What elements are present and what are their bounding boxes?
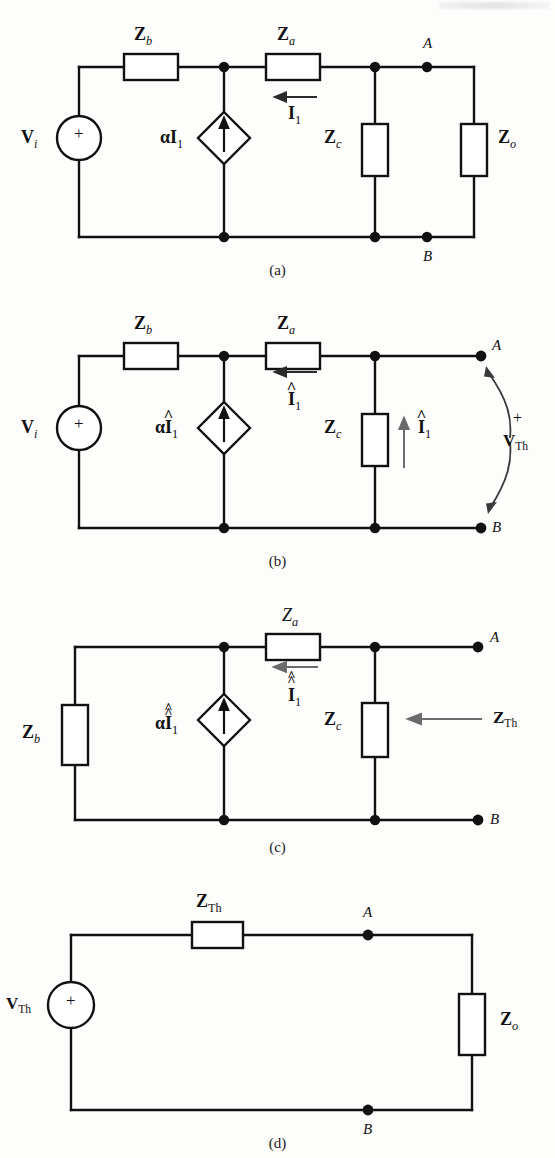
resistor-zb-a xyxy=(124,54,178,80)
label-branch-i1hat-b: ^I1 xyxy=(418,418,431,440)
panel-d-svg xyxy=(0,870,555,1158)
terminal-label-d-A: A xyxy=(363,905,372,920)
resistor-zc-a xyxy=(362,124,388,176)
panel-c: Zb Za Zc α^^I1 ^^I1 ZTh A B (c) xyxy=(0,590,555,870)
resistor-zo-d xyxy=(459,994,485,1055)
panel-a: Zb Za Zc Zo Vi + αI1 I1 A B (a) xyxy=(0,0,555,290)
terminal-dot-b-A xyxy=(476,351,487,362)
terminal-label-b-A: A xyxy=(492,338,501,353)
label-zo-d: Zo xyxy=(500,1010,518,1032)
terminal-label-c-A: A xyxy=(490,630,499,645)
node-dot-a-3 xyxy=(370,62,380,72)
label-zc-c: Zc xyxy=(324,710,341,732)
node-dot-b-4 xyxy=(370,523,380,533)
label-vi-b: Vi xyxy=(21,418,37,440)
caption-a: (a) xyxy=(0,262,555,279)
terminal-dot-c-A xyxy=(473,642,484,653)
label-alpha-i1-a: αI1 xyxy=(160,128,183,150)
current-arrow-i1-a xyxy=(275,93,317,102)
terminal-label-a-A: A xyxy=(423,36,432,51)
label-alpha-i1dblhat-c: α^^I1 xyxy=(155,714,178,736)
node-dot-c-1 xyxy=(219,642,229,652)
hat-icon: ^ xyxy=(287,379,297,396)
branch-current-arrow-b xyxy=(399,418,408,468)
hat-icon: ^ xyxy=(417,407,427,424)
zth-arrow-c xyxy=(408,714,482,724)
caption-c: (c) xyxy=(0,839,555,856)
polarity-plus-a: + xyxy=(74,125,84,142)
terminal-dot-b-B xyxy=(476,523,487,534)
node-dot-c-2 xyxy=(219,815,229,825)
node-dot-b-3 xyxy=(370,351,380,361)
terminal-label-b-B: B xyxy=(492,520,501,535)
hat-icon: ^ xyxy=(164,407,174,424)
label-i1-a: I1 xyxy=(288,104,301,126)
terminal-dot-a-B xyxy=(422,232,432,242)
label-zth-c: ZTh xyxy=(493,709,517,730)
label-zb-b: Zb xyxy=(134,314,152,336)
resistor-zb-b xyxy=(124,343,178,369)
label-zc-a: Zc xyxy=(324,128,341,150)
label-alpha-i1hat-b: α^I1 xyxy=(155,418,178,440)
node-dot-a-1 xyxy=(219,62,229,72)
current-arrow-i1dblhat-c xyxy=(274,662,318,672)
vth-arc-arrowheads-b xyxy=(484,366,497,514)
resistor-za-a xyxy=(266,54,320,80)
output-polarity-plus-b: + xyxy=(513,410,522,426)
label-i1dblhat-c: ^^I1 xyxy=(288,686,301,708)
terminal-dot-c-B xyxy=(473,815,484,826)
panel-b: Zb Za Zc Vi + α^I1 ^I1 ^I1 + VTh A B (b) xyxy=(0,290,555,590)
resistor-za-c xyxy=(266,634,320,660)
label-vi-a: Vi xyxy=(21,128,37,150)
resistor-zb-c xyxy=(62,705,88,765)
label-vth-b: VTh xyxy=(503,432,528,453)
label-zth-d: ZTh xyxy=(196,892,222,914)
node-dot-b-2 xyxy=(219,523,229,533)
label-zo-a: Zo xyxy=(498,128,516,150)
label-za-a: Za xyxy=(277,25,295,47)
panel-d: ZTh Zo VTh + A B (d) xyxy=(0,870,555,1158)
resistor-zc-c xyxy=(362,703,388,757)
label-zb-c: Zb xyxy=(22,723,40,745)
terminal-dot-d-A xyxy=(363,930,374,941)
node-dot-a-2 xyxy=(219,232,229,242)
resistor-zo-a xyxy=(461,124,487,176)
node-dot-c-3 xyxy=(370,642,380,652)
label-zc-b: Zc xyxy=(324,418,341,440)
label-i1hat-b: ^I1 xyxy=(288,390,301,412)
label-vth-d: VTh xyxy=(6,995,31,1016)
double-hat-icon-2: ^ xyxy=(164,706,172,720)
double-hat-icon-2: ^ xyxy=(287,674,295,688)
resistor-za-b xyxy=(266,343,320,369)
polarity-plus-d: + xyxy=(66,992,76,1009)
node-dot-b-1 xyxy=(219,351,229,361)
caption-d: (d) xyxy=(0,1135,555,1152)
caption-b: (b) xyxy=(0,553,555,570)
polarity-plus-b: + xyxy=(74,415,84,432)
resistor-zth-d xyxy=(192,922,243,948)
terminal-dot-d-B xyxy=(363,1105,374,1116)
node-dot-c-4 xyxy=(370,815,380,825)
label-zb-a: Zb xyxy=(134,25,152,47)
label-za-b: Za xyxy=(277,314,295,336)
terminal-label-c-B: B xyxy=(490,812,499,827)
node-dot-a-4 xyxy=(370,232,380,242)
terminal-dot-a-A xyxy=(422,62,432,72)
label-za-c: Za xyxy=(282,606,298,628)
resistor-zc-b xyxy=(362,414,388,466)
panel-c-svg xyxy=(0,590,555,870)
